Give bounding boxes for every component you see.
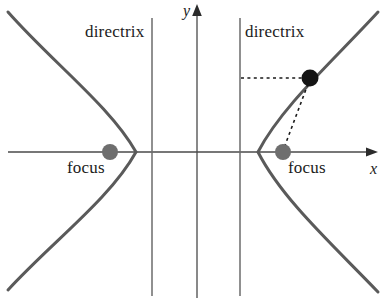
- left-focus-label: focus: [67, 159, 105, 176]
- right-directrix-label: directrix: [245, 23, 304, 40]
- y-axis-label: y: [183, 3, 190, 19]
- hyperbola-figure: directrix directrix focus focus y x: [0, 0, 384, 303]
- right-focus-label: focus: [288, 159, 326, 176]
- left-directrix-label: directrix: [85, 23, 144, 40]
- y-axis-arrow-icon: [192, 4, 202, 16]
- figure-canvas: [0, 0, 384, 303]
- curve-point-dot: [302, 70, 319, 87]
- x-axis: [8, 148, 378, 157]
- x-axis-label: x: [370, 161, 377, 177]
- y-axis: [192, 4, 202, 298]
- point-to-focus-dotted-line: [284, 84, 308, 148]
- x-axis-arrow-icon: [366, 148, 378, 157]
